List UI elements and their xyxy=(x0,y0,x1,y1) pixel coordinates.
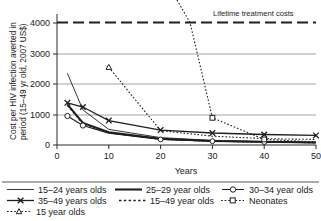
x-tick-label: 20 xyxy=(156,151,166,161)
legend-item-label: 15–24 years olds xyxy=(38,185,107,195)
square-marker xyxy=(210,115,215,120)
circle-marker xyxy=(210,139,215,144)
circle-marker xyxy=(158,137,163,142)
x-tick-label: 40 xyxy=(259,151,269,161)
legend-item-30-34[interactable]: 30–34 year olds xyxy=(222,185,314,195)
circle-marker xyxy=(65,113,70,118)
legend-item-label: 15–49 year olds xyxy=(150,196,215,206)
legend-item-15yo[interactable]: 15 year olds xyxy=(7,207,86,217)
y-axis-title-line1: Cost per HIV infection averted in xyxy=(9,22,18,140)
series-line-15-49 xyxy=(67,105,316,142)
series-line-neonates xyxy=(177,0,316,142)
chart-figure: Lifetime treatment costs xyxy=(0,0,321,221)
circle-marker xyxy=(80,123,85,128)
square-marker xyxy=(262,137,267,142)
y-tick-label: 1000 xyxy=(30,110,50,120)
legend-item-label: 35–49 years olds xyxy=(38,196,107,206)
chart-legend: 15–24 years olds 25–29 year olds 30–34 y… xyxy=(2,182,319,217)
reference-line-label: Lifetime treatment costs xyxy=(213,9,294,18)
legend-item-15-24[interactable]: 15–24 years olds xyxy=(7,185,107,195)
legend-square-marker-icon xyxy=(230,198,235,203)
y-axis-title-line2: period (15–49 yr old, 2007 US$) xyxy=(19,23,28,140)
series-line-15yo xyxy=(109,67,316,139)
y-tick-label: 2000 xyxy=(30,79,50,89)
x-tick-label: 0 xyxy=(54,151,59,161)
y-tick-label: 0 xyxy=(45,140,50,150)
y-axis-title: Cost per HIV infection averted in period… xyxy=(9,22,28,140)
legend-item-15-49[interactable]: 15–49 year olds xyxy=(119,196,215,206)
legend-item-label: 15 year olds xyxy=(36,207,86,217)
x-tick-label: 50 xyxy=(311,151,321,161)
y-tick-label: 4000 xyxy=(30,18,50,28)
x-tick-labels: 0 10 20 30 40 50 xyxy=(54,151,321,161)
legend-item-label: 25–29 year olds xyxy=(146,185,211,195)
series-markers-15yo xyxy=(106,64,112,69)
y-tick-label: 3000 xyxy=(30,49,50,59)
gridlines xyxy=(57,54,316,115)
legend-item-25-29[interactable]: 25–29 year olds xyxy=(115,185,211,195)
x-tick-label: 10 xyxy=(104,151,114,161)
x-tick-label: 30 xyxy=(207,151,217,161)
legend-item-neonates[interactable]: Neonates xyxy=(221,196,288,206)
legend-item-label: Neonates xyxy=(249,196,288,206)
legend-circle-marker-icon xyxy=(230,187,235,192)
hiv-cost-line-chart: Lifetime treatment costs xyxy=(0,0,321,221)
triangle-marker xyxy=(106,64,112,69)
legend-triangle-marker-icon xyxy=(16,209,22,214)
legend-item-35-49[interactable]: 35–49 years olds xyxy=(7,196,107,206)
y-tick-labels: 0 1000 2000 3000 4000 xyxy=(30,18,50,150)
x-axis-title: Years xyxy=(175,166,198,176)
legend-item-label: 30–34 year olds xyxy=(249,185,314,195)
series-line-25-29 xyxy=(67,104,316,142)
